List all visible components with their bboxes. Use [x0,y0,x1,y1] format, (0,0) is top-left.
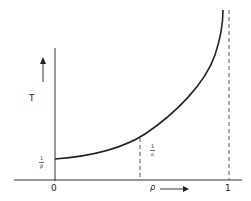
t-rho-curve [55,10,223,159]
y-axis-label: T [29,94,35,103]
marker-numerator: 1 [151,144,154,149]
x-axis-label: ρ [150,184,155,192]
y-intercept-label: 1 β [39,156,44,169]
y-direction-arrow-icon [40,57,46,82]
x-tick-end: 1 [225,184,231,193]
x-direction-arrow-icon [160,186,189,192]
marker-denominator: α [151,152,154,157]
diagram-canvas [0,0,251,201]
y-intercept-numerator: 1 [40,156,43,161]
y-intercept-denominator: β [40,164,43,169]
marker-label: 1 α [150,144,155,157]
x-tick-origin: 0 [51,184,57,193]
